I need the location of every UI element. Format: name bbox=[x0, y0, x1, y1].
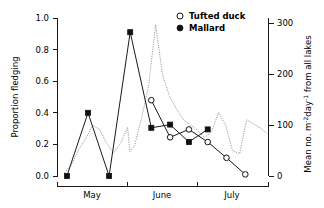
y2-tick-label-0: 0 bbox=[277, 171, 282, 181]
legend-label-mallard: Mallard bbox=[189, 23, 225, 33]
chart-figure: 1.0 0.8 0.6 0.4 0.2 0.0 Proportion fledg… bbox=[0, 0, 324, 208]
x-axis-label-june: June bbox=[152, 190, 172, 200]
y2-axis-title: Mean no. m-2day-1 from all lakes bbox=[302, 35, 314, 173]
y-axis-title: Proportion fledging bbox=[10, 56, 20, 137]
y-tick-label-0.0: 0.0 bbox=[35, 171, 49, 181]
left-axis-group: 1.0 0.8 0.6 0.4 0.2 0.0 Proportion fledg… bbox=[10, 13, 58, 181]
data-point-marker bbox=[168, 122, 173, 127]
y-tick-label-0.8: 0.8 bbox=[35, 45, 49, 55]
series-markers-mallard bbox=[64, 30, 210, 179]
y-tick-label-0.2: 0.2 bbox=[35, 139, 49, 149]
x-axis-segment-ticks bbox=[58, 182, 269, 187]
data-point-marker bbox=[224, 155, 230, 161]
data-point-marker bbox=[167, 135, 173, 141]
data-series-group bbox=[64, 25, 266, 179]
data-point-marker bbox=[205, 139, 211, 145]
y2-tick-label-300: 300 bbox=[277, 18, 293, 28]
x-axis-group: May June July bbox=[57, 182, 268, 201]
right-axis-ticks bbox=[269, 23, 274, 176]
x-axis-label-july: July bbox=[223, 190, 239, 200]
chart-legend: Tufted duck Mallard bbox=[177, 11, 246, 33]
data-point-marker bbox=[243, 172, 249, 178]
chart-plot-area: 1.0 0.8 0.6 0.4 0.2 0.0 Proportion fledg… bbox=[0, 0, 324, 208]
data-point-marker bbox=[86, 110, 91, 115]
series-line-mallard bbox=[67, 32, 208, 176]
data-point-marker bbox=[64, 174, 69, 179]
series-markers-tufted-duck bbox=[149, 97, 249, 177]
series-line-chironomid-emergence bbox=[65, 25, 267, 173]
data-point-marker bbox=[128, 30, 133, 35]
legend-marker-filled-circle-icon bbox=[177, 25, 183, 31]
x-axis-label-may: May bbox=[83, 190, 101, 200]
y-tick-label-1.0: 1.0 bbox=[35, 13, 49, 23]
legend-marker-open-circle-icon bbox=[177, 13, 183, 19]
y-tick-label-0.6: 0.6 bbox=[35, 76, 49, 86]
legend-label-tufted-duck: Tufted duck bbox=[189, 11, 246, 21]
data-point-marker bbox=[186, 127, 192, 133]
data-point-marker bbox=[186, 140, 191, 145]
series-line-tufted-duck bbox=[151, 100, 245, 174]
data-point-marker bbox=[149, 97, 155, 103]
y2-tick-label-200: 200 bbox=[277, 69, 293, 79]
right-axis-group: 300 200 100 0 Mean no. m-2day-1 from all… bbox=[269, 18, 314, 181]
y2-tick-label-100: 100 bbox=[277, 120, 293, 130]
left-axis-ticks bbox=[53, 18, 58, 176]
data-point-marker bbox=[149, 125, 154, 130]
data-point-marker bbox=[107, 174, 112, 179]
y-tick-label-0.4: 0.4 bbox=[35, 108, 49, 118]
data-point-marker bbox=[205, 127, 210, 132]
